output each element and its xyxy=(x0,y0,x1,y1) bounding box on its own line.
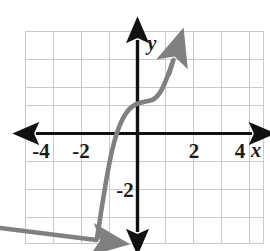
plot-background xyxy=(0,0,270,251)
y-axis-variable-label: y xyxy=(146,32,157,55)
x-axis-variable-label: x xyxy=(250,139,261,161)
x-tick-label-pos4: 4 xyxy=(235,139,246,163)
x-tick-label-neg4: -4 xyxy=(32,139,50,163)
x-tick-label-pos2: 2 xyxy=(189,139,200,163)
x-tick-label-neg2: -2 xyxy=(72,139,90,163)
coordinate-plane-svg: -4 -2 2 4 -2 x y xyxy=(0,0,270,251)
y-tick-label-neg2: -2 xyxy=(116,178,134,202)
graph-figure: -4 -2 2 4 -2 x y xyxy=(0,0,270,251)
